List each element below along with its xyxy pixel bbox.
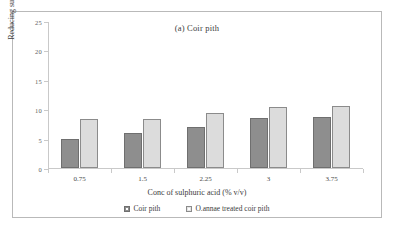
- legend-label: Coir pith: [133, 204, 160, 213]
- x-tick-label: 3.75: [325, 175, 337, 183]
- plot-area: 0510152025 0.751.52.2533.75: [48, 22, 363, 169]
- bar: [143, 119, 161, 168]
- y-tick: [44, 140, 48, 141]
- x-tick: [300, 169, 301, 173]
- bar: [80, 119, 98, 168]
- x-tick: [174, 169, 175, 173]
- x-tick-label: 2.25: [199, 175, 211, 183]
- bar: [269, 107, 287, 168]
- x-axis-line: [48, 168, 363, 169]
- bar: [206, 113, 224, 168]
- y-tick-label: 0: [39, 166, 42, 173]
- legend-item: O.annae treated coir pith: [186, 204, 269, 213]
- x-tick-label: 0.75: [73, 175, 85, 183]
- x-tick-label: 3: [267, 175, 271, 183]
- y-axis-line: [48, 22, 49, 169]
- bar: [124, 133, 142, 168]
- y-tick: [44, 110, 48, 111]
- legend-swatch-icon: [186, 206, 192, 212]
- y-tick-label: 25: [35, 19, 42, 26]
- y-tick-label: 15: [35, 77, 42, 84]
- x-tick: [111, 169, 112, 173]
- legend-label: O.annae treated coir pith: [195, 204, 269, 213]
- x-tick: [48, 169, 49, 173]
- y-axis-title: Reducing sugars (g/L): [7, 0, 16, 52]
- legend-swatch-icon: [124, 206, 130, 212]
- y-tick-label: 20: [35, 48, 42, 55]
- legend-item: Coir pith: [124, 204, 160, 213]
- bar: [332, 106, 350, 168]
- bar: [313, 117, 331, 168]
- figure-frame: (a) Coir pith Reducing sugars (g/L) 0510…: [12, 11, 382, 218]
- y-tick: [44, 22, 48, 23]
- y-tick: [44, 51, 48, 52]
- x-tick-label: 1.5: [138, 175, 147, 183]
- bar: [250, 118, 268, 168]
- bar: [187, 127, 205, 168]
- x-tick: [363, 169, 364, 173]
- y-tick-label: 10: [35, 107, 42, 114]
- bar: [61, 139, 79, 168]
- chart-legend: Coir pithO.annae treated coir pith: [13, 204, 381, 213]
- x-axis-title: Conc of sulphuric acid (% v/v): [13, 188, 381, 197]
- y-tick-label: 5: [39, 136, 42, 143]
- x-tick: [237, 169, 238, 173]
- y-tick: [44, 81, 48, 82]
